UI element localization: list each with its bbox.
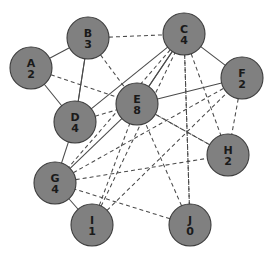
edge-e-to-c (149, 51, 173, 87)
graph-canvas: A2B3C4D4E8F2G4H2I1J0 (0, 0, 275, 261)
edge-f-to-h (232, 99, 239, 136)
edge-b-to-e (101, 55, 126, 88)
node-c[interactable]: C4 (163, 13, 205, 55)
graph-diagram: A2B3C4D4E8F2G4H2I1J0 (0, 0, 275, 261)
node-count-i: 1 (88, 225, 96, 238)
node-count-e: 8 (133, 104, 141, 117)
node-count-d: 4 (71, 122, 79, 135)
node-e[interactable]: E8 (116, 83, 158, 125)
node-count-a: 2 (27, 68, 35, 81)
node-a[interactable]: A2 (10, 47, 52, 89)
edge-c-to-h (191, 54, 221, 136)
edge-j-to-e (145, 122, 182, 205)
node-i[interactable]: I1 (71, 204, 113, 246)
node-count-g: 4 (51, 183, 59, 196)
edge-f-to-e (156, 83, 221, 99)
edge-d-to-g (61, 142, 68, 164)
node-count-h: 2 (224, 155, 232, 168)
node-h[interactable]: H2 (207, 134, 249, 176)
edge-b-to-c (109, 35, 164, 37)
edge-a-to-e (51, 75, 118, 98)
node-count-j: 0 (186, 225, 194, 238)
node-count-f: 2 (238, 78, 246, 91)
edge-a-to-d (44, 84, 62, 106)
edge-i-to-e (99, 123, 130, 206)
edge-c-to-f (201, 47, 226, 66)
node-f[interactable]: F2 (221, 57, 263, 99)
node-count-b: 3 (84, 38, 92, 51)
node-j[interactable]: J0 (169, 204, 211, 246)
node-count-c: 4 (180, 34, 188, 47)
edge-i-to-c (101, 52, 175, 206)
node-d[interactable]: D4 (54, 101, 96, 143)
edge-g-to-i (69, 199, 79, 210)
node-g[interactable]: G4 (34, 162, 76, 204)
edge-j-to-c (185, 54, 190, 204)
node-layer: A2B3C4D4E8F2G4H2I1J0 (10, 13, 263, 246)
node-b[interactable]: B3 (67, 17, 109, 59)
edge-d-to-b (78, 58, 85, 101)
edge-b-to-a (49, 48, 70, 59)
